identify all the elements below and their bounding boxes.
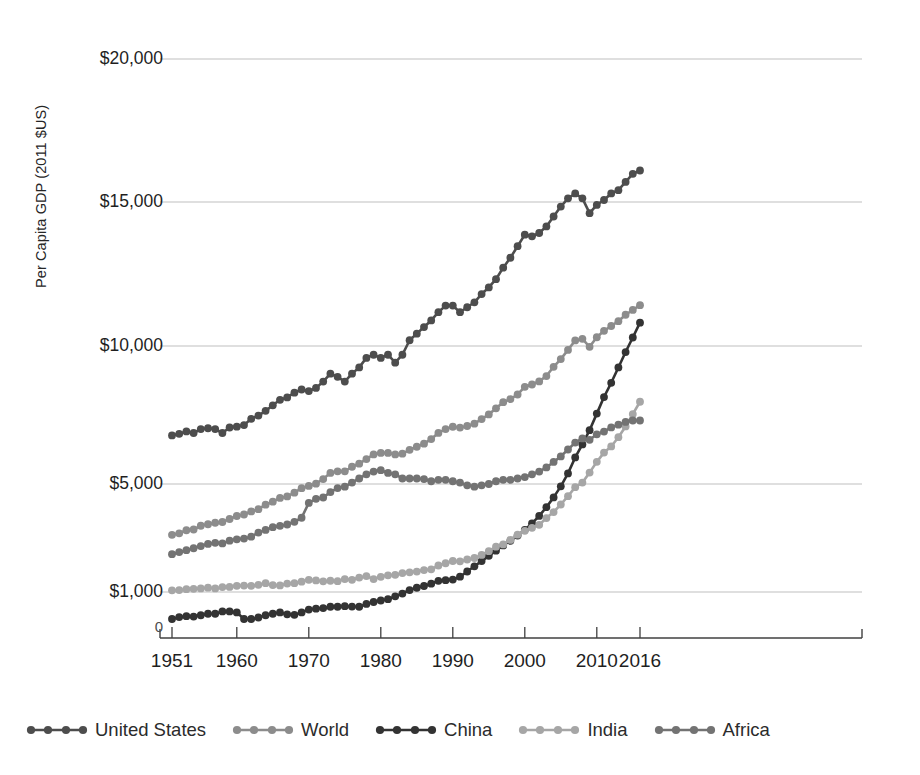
data-point (478, 551, 486, 559)
data-point (399, 475, 407, 483)
data-point (564, 446, 572, 454)
data-point (283, 493, 291, 501)
data-point (420, 440, 428, 448)
data-point (298, 514, 306, 522)
data-point (607, 190, 615, 198)
data-point (586, 436, 594, 444)
data-point (226, 608, 234, 616)
data-point (521, 527, 529, 535)
data-point (355, 460, 363, 468)
data-point (463, 422, 471, 430)
data-point (456, 557, 464, 565)
data-point (492, 275, 500, 283)
data-point (557, 203, 565, 211)
data-point (175, 529, 183, 537)
data-point (298, 386, 306, 394)
data-point (355, 475, 363, 483)
data-point (442, 476, 450, 484)
data-point (399, 590, 407, 598)
data-point (435, 476, 443, 484)
data-point (391, 359, 399, 367)
data-point (413, 443, 421, 451)
data-point (607, 379, 615, 387)
data-point (276, 522, 284, 530)
data-point (521, 231, 529, 239)
data-point (535, 512, 543, 520)
data-point (435, 577, 443, 585)
data-point (226, 424, 234, 432)
y-tick-label-5000: $5,000 (63, 473, 163, 494)
data-point (219, 429, 227, 437)
data-point (370, 468, 378, 476)
legend-item-india[interactable]: India (518, 719, 627, 741)
data-point (636, 301, 644, 309)
data-point (262, 501, 270, 509)
data-point (377, 354, 385, 362)
data-point (204, 424, 212, 432)
data-point (391, 451, 399, 459)
legend-swatch-united-states (26, 722, 88, 738)
data-point (298, 609, 306, 617)
data-point (391, 470, 399, 478)
data-point (507, 476, 515, 484)
x-tick-label-1951: 1951 (151, 650, 193, 672)
data-point (341, 602, 349, 610)
data-point (449, 423, 457, 431)
legend-item-china[interactable]: China (375, 719, 492, 741)
data-point (499, 398, 507, 406)
data-point (240, 615, 248, 623)
data-point (305, 387, 313, 395)
data-point (471, 554, 479, 562)
data-point (319, 577, 327, 585)
data-point (355, 574, 363, 582)
data-point (420, 475, 428, 483)
data-point (370, 451, 378, 459)
data-point (413, 568, 421, 576)
data-point (579, 335, 587, 343)
data-point (543, 503, 551, 511)
data-point (211, 425, 219, 433)
data-point (579, 479, 587, 487)
data-point (463, 481, 471, 489)
legend-label: World (301, 719, 349, 741)
data-point (471, 420, 479, 428)
data-point (341, 483, 349, 491)
data-point (197, 611, 205, 619)
data-point (600, 327, 608, 335)
data-point (175, 613, 183, 621)
data-point (190, 613, 198, 621)
data-point (219, 518, 227, 526)
data-point (377, 597, 385, 605)
data-point (391, 592, 399, 600)
data-point (629, 417, 637, 425)
legend-swatch-india (518, 722, 580, 738)
legend-swatch-africa (654, 722, 716, 738)
data-point (629, 334, 637, 342)
data-point (557, 355, 565, 363)
data-point (586, 209, 594, 217)
data-point (507, 254, 515, 262)
data-point (168, 531, 176, 539)
data-point (240, 421, 248, 429)
data-point (319, 475, 327, 483)
data-point (334, 484, 342, 492)
data-point (435, 562, 443, 570)
data-point (327, 603, 335, 611)
data-point (449, 302, 457, 310)
data-point (600, 196, 608, 204)
data-point (442, 576, 450, 584)
data-point (427, 317, 435, 325)
data-point (233, 512, 241, 520)
data-point (636, 417, 644, 425)
x-tick-label-2016: 2016 (619, 650, 661, 672)
data-point (204, 584, 212, 592)
data-point (456, 479, 464, 487)
legend-item-world[interactable]: World (232, 719, 349, 741)
data-point (175, 586, 183, 594)
data-point (262, 579, 270, 587)
data-point (600, 449, 608, 457)
data-point (586, 343, 594, 351)
legend-item-united-states[interactable]: United States (26, 719, 206, 741)
data-point (269, 401, 277, 409)
legend-item-africa[interactable]: Africa (654, 719, 770, 741)
